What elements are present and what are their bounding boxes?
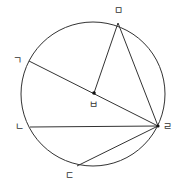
segment-b-m bbox=[94, 23, 118, 93]
segment-d-r bbox=[77, 126, 158, 166]
label-d: ㄷ bbox=[65, 171, 74, 181]
point-r-dot bbox=[156, 124, 159, 127]
label-b: ㅂ bbox=[89, 100, 98, 110]
center-point bbox=[92, 91, 96, 95]
label-n: ㄴ bbox=[15, 122, 24, 132]
geometry-diagram bbox=[0, 0, 182, 184]
label-m: ㅁ bbox=[114, 6, 123, 16]
segment-n-r bbox=[30, 126, 158, 127]
label-r: ㄹ bbox=[163, 122, 172, 132]
segment-m-r bbox=[118, 23, 158, 126]
label-g: ㄱ bbox=[13, 56, 22, 66]
